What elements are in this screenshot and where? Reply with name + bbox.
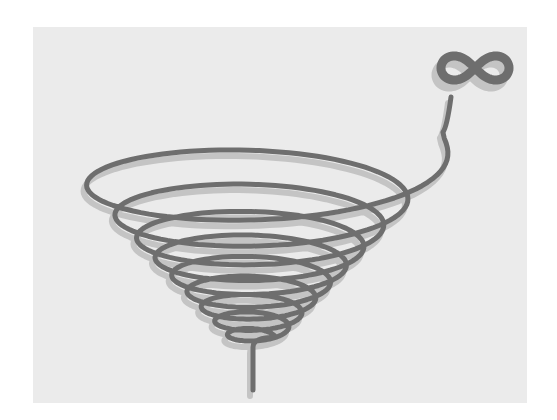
illustration-canvas: inverted conical spiral ending in an inf… — [0, 0, 557, 420]
spiral-illustration — [0, 0, 557, 420]
spiral-shadow — [84, 63, 504, 396]
